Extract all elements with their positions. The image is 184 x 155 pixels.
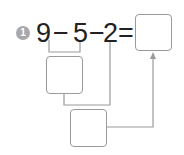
operand-5: 5 xyxy=(73,18,88,48)
intermediate-box-2[interactable] xyxy=(70,109,107,147)
operand-2: 2 xyxy=(103,18,118,48)
connector-box2-to-answer xyxy=(107,58,153,127)
arrow-up-icon xyxy=(150,52,156,59)
problem-number-badge: 1 xyxy=(16,26,30,40)
equals-sign: = xyxy=(118,18,134,48)
operand-9: 9 xyxy=(36,18,51,48)
minus-sign-1: − xyxy=(53,18,69,48)
answer-box[interactable] xyxy=(135,14,172,51)
intermediate-box-1[interactable] xyxy=(46,56,83,94)
